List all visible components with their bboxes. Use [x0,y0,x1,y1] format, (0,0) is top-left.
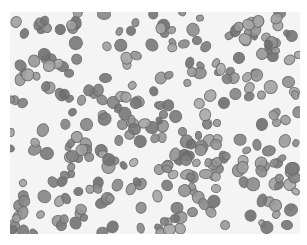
blood-cell [113,135,123,147]
blood-cell [39,15,50,26]
blood-cell [182,78,192,88]
blood-cell [67,34,86,52]
blood-cell [277,132,293,149]
blood-cell [72,187,83,197]
blood-cell [70,53,83,66]
blood-cell [151,188,164,203]
blood-cell [63,69,74,79]
blood-cell [177,12,187,18]
blood-cell [115,26,125,37]
blood-cell [231,50,248,66]
blood-cell [93,83,104,97]
blood-cell [211,183,221,192]
blood-cell [180,154,193,167]
blood-cell [127,156,140,169]
blood-cell [294,50,300,59]
blood-cell [280,219,294,231]
blood-cell [177,37,191,49]
blood-cell [291,139,300,149]
blood-cell [110,177,126,194]
blood-cell [260,221,275,234]
blood-cell [118,160,129,172]
blood-cell [18,26,30,39]
blood-cell [17,177,28,188]
blood-cell [147,12,160,20]
blood-cell [127,79,139,91]
blood-cell [99,72,112,82]
blood-cell [234,134,247,147]
blood-cell [261,143,277,157]
blood-cell [213,118,222,127]
blood-cell [59,119,71,131]
blood-cell [255,117,269,131]
blood-cell [97,12,111,20]
blood-cell [10,143,16,153]
blood-cell [290,186,300,197]
blood-cell [291,106,300,120]
blood-cell [143,36,161,54]
blood-cell [34,122,50,139]
blood-cell [243,208,259,224]
blood-cell [245,177,261,192]
blood-cell [66,106,78,118]
blood-cell [196,14,205,22]
blood-cell [35,187,53,205]
blood-cell [270,46,279,54]
blood-cell [149,85,161,97]
blood-cell [135,221,145,234]
blood-cell [158,109,168,119]
blood-cell [228,87,242,101]
blood-cell [10,128,14,137]
blood-cell [35,209,47,221]
blood-cell [134,200,147,214]
blood-cell [218,218,232,232]
micrograph-image [10,12,300,234]
blood-cell [101,40,114,53]
blood-cell [282,201,300,219]
blood-cell [186,206,199,218]
